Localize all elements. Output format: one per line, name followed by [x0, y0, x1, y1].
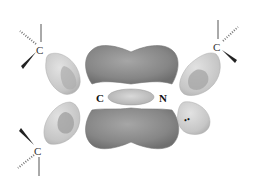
sigma-lobe-lower-left — [44, 102, 80, 144]
lone-pair-lobe: •• — [178, 102, 211, 135]
svg-text:C: C — [34, 145, 41, 157]
pi-orbital-top-lobe — [86, 46, 179, 84]
hashed-bond — [223, 27, 238, 41]
svg-text:C: C — [213, 41, 220, 53]
sigma-lobe-upper-right — [180, 53, 221, 96]
wedge-bond — [222, 50, 237, 63]
wedge-bond — [21, 52, 36, 69]
sigma-bond-lobe — [104, 87, 158, 107]
substituent-top-left: C — [20, 24, 43, 69]
pi-orbital-bottom-lobe — [86, 108, 179, 149]
svg-text:C: C — [36, 44, 43, 56]
central-carbon-label: C — [96, 92, 104, 104]
sigma-lobe-upper-left — [46, 53, 81, 94]
hashed-bond — [18, 155, 34, 168]
hashed-bond — [20, 31, 36, 44]
substituent-bottom-left: C — [18, 128, 41, 176]
wedge-bond — [19, 128, 34, 145]
central-nitrogen-label: N — [159, 92, 167, 104]
orbital-diagram: •• C N C C C — [0, 0, 258, 184]
